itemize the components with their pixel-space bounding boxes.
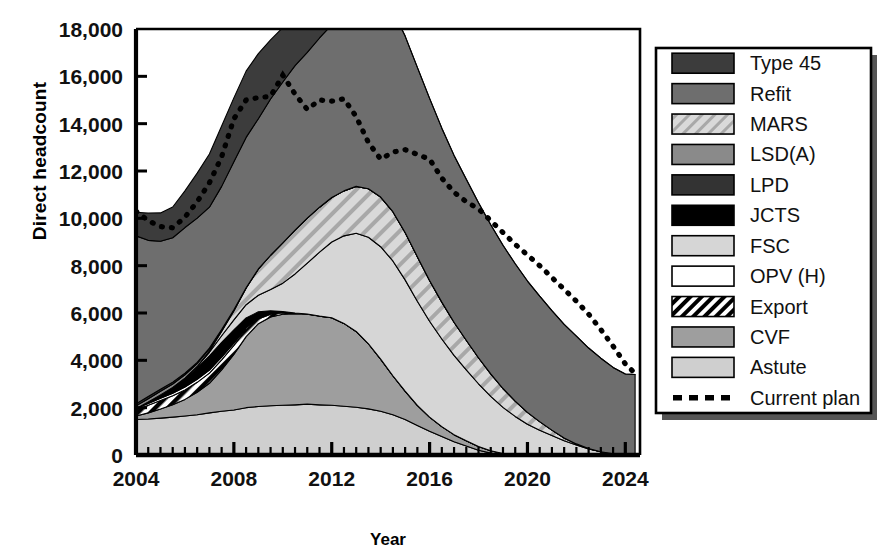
legend-label-type-45: Type 45	[750, 52, 821, 74]
legend-item-refit[interactable]: Refit	[672, 83, 792, 105]
y-tick-label: 0	[111, 444, 123, 467]
y-tick-label: 10,000	[59, 207, 123, 230]
y-axis: 02,0004,0006,0008,00010,00012,00014,0001…	[59, 18, 147, 467]
y-tick-label: 4,000	[70, 349, 123, 372]
x-tick-label: 2004	[113, 467, 160, 490]
legend-item-lpd[interactable]: LPD	[672, 174, 789, 196]
x-tick-label: 2008	[211, 467, 258, 490]
legend-swatch-lsd-a	[672, 144, 734, 164]
legend-label-mars: MARS	[750, 113, 808, 135]
legend-label-jcts: JCTS	[750, 204, 800, 226]
y-tick-label: 14,000	[59, 113, 123, 136]
legend-swatch-opv-h	[672, 266, 734, 286]
legend-label-refit: Refit	[750, 83, 792, 105]
y-tick-label: 2,000	[70, 397, 123, 420]
y-tick-label: 12,000	[59, 160, 123, 183]
legend-swatch-fsc	[672, 236, 734, 256]
x-tick-label: 2016	[406, 467, 453, 490]
legend-label-current-plan: Current plan	[750, 387, 860, 409]
plot-area-stack	[136, 1, 635, 455]
legend-label-export: Export	[750, 296, 808, 318]
legend-label-lpd: LPD	[750, 174, 789, 196]
x-tick-label: 2020	[504, 467, 551, 490]
legend-label-lsd-a: LSD(A)	[750, 143, 816, 165]
legend-label-cvf: CVF	[750, 326, 790, 348]
y-tick-label: 18,000	[59, 18, 123, 41]
legend-item-cvf[interactable]: CVF	[672, 326, 790, 348]
chart-figure: Direct headcount 02,0004,0006,0	[0, 0, 883, 557]
stacked-area-chart: 02,0004,0006,0008,00010,00012,00014,0001…	[0, 0, 883, 557]
legend[interactable]: Type 45RefitMARSLSD(A)LPDJCTSFSCOPV (H)E…	[656, 48, 877, 420]
legend-item-fsc[interactable]: FSC	[672, 235, 790, 257]
legend-label-opv-h: OPV (H)	[750, 265, 826, 287]
legend-swatch-export	[672, 297, 734, 317]
y-tick-label: 16,000	[59, 65, 123, 88]
legend-label-fsc: FSC	[750, 235, 790, 257]
y-tick-label: 6,000	[70, 302, 123, 325]
y-axis-title: Direct headcount	[29, 61, 51, 261]
x-tick-label: 2012	[308, 467, 355, 490]
y-tick-label: 8,000	[70, 255, 123, 278]
legend-swatch-jcts	[672, 205, 734, 225]
legend-swatch-lpd	[672, 175, 734, 195]
legend-swatch-astute	[672, 357, 734, 377]
legend-swatch-cvf	[672, 327, 734, 347]
x-axis-title: Year	[370, 530, 406, 549]
legend-swatch-mars	[672, 114, 734, 134]
x-tick-label: 2024	[602, 467, 649, 490]
legend-swatch-type-45	[672, 53, 734, 73]
legend-label-astute: Astute	[750, 356, 807, 378]
legend-swatch-refit	[672, 84, 734, 104]
